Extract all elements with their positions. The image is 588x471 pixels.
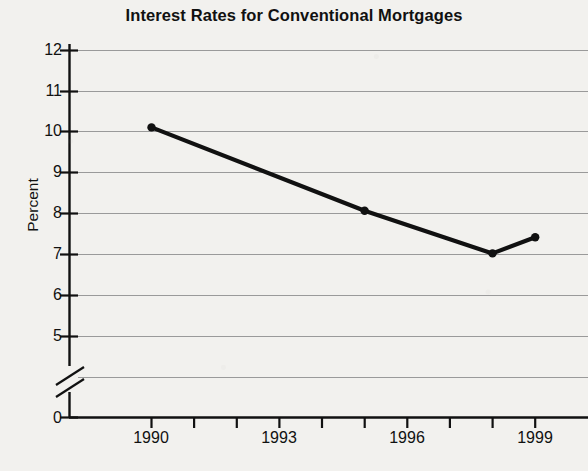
data-point-1990 — [147, 123, 155, 131]
data-point-markers — [147, 123, 539, 257]
data-series-line — [152, 127, 536, 253]
data-point-1999 — [531, 233, 539, 241]
chart-container: Interest Rates for Conventional Mortgage… — [0, 0, 588, 471]
data-point-1998 — [488, 249, 496, 257]
data-point-1995 — [360, 207, 368, 215]
plot-area — [0, 0, 588, 471]
gridlines — [69, 51, 588, 378]
